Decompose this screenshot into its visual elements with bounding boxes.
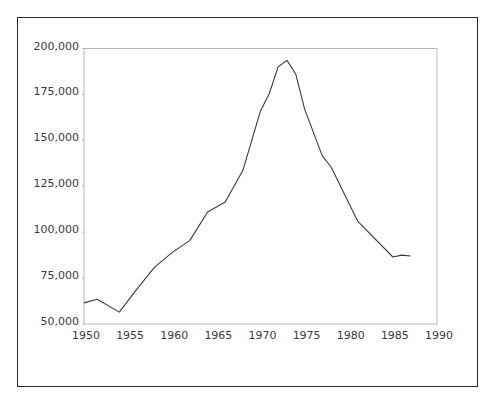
y-tick-label: 200,000: [34, 40, 80, 53]
y-tick-label: 125,000: [34, 177, 80, 190]
x-axis: 195019551960196519701975198019851990: [72, 329, 453, 342]
x-tick-label: 1950: [72, 329, 100, 342]
y-axis: 50,00075,000100,000125,000150,000175,000…: [34, 40, 85, 329]
x-tick-label: 1990: [425, 329, 453, 342]
y-tick-label: 150,000: [34, 131, 80, 144]
x-tick-label: 1960: [160, 329, 188, 342]
x-tick-label: 1970: [249, 329, 277, 342]
x-tick-label: 1955: [116, 329, 144, 342]
y-tick-label: 100,000: [34, 223, 80, 236]
x-tick-label: 1975: [293, 329, 321, 342]
y-tick-label: 75,000: [41, 269, 80, 282]
y-tick-label: 50,000: [41, 315, 80, 328]
x-tick-label: 1985: [381, 329, 409, 342]
line-chart: 50,00075,000100,000125,000150,000175,000…: [0, 0, 493, 404]
data-line: [84, 60, 411, 312]
plot-area: [84, 49, 437, 325]
x-tick-label: 1980: [337, 329, 365, 342]
y-tick-label: 175,000: [34, 85, 80, 98]
x-tick-label: 1965: [204, 329, 232, 342]
